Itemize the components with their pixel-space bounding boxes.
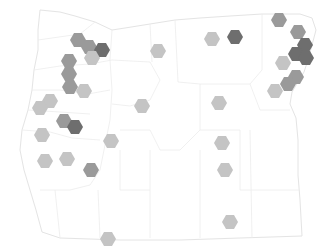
hex-bin	[204, 32, 220, 46]
hex-bin	[61, 67, 77, 81]
hex-bin	[76, 84, 92, 98]
hex-bin	[34, 128, 50, 142]
hex-bin	[217, 163, 233, 177]
hex-bin	[37, 154, 53, 168]
hex-bin	[275, 56, 291, 70]
hex-bin	[134, 99, 150, 113]
hex-bin	[100, 232, 116, 246]
hex-bin	[271, 13, 287, 27]
hex-bin	[222, 215, 238, 229]
hex-bin	[150, 44, 166, 58]
hex-bin	[214, 136, 230, 150]
oregon-hexbin-map	[0, 0, 326, 252]
hex-bin	[290, 25, 306, 39]
hex-bin	[227, 30, 243, 44]
hex-bin	[103, 134, 119, 148]
hex-bin	[211, 96, 227, 110]
hex-bin	[59, 152, 75, 166]
hex-bin	[267, 84, 283, 98]
hexbin-layer	[32, 13, 314, 246]
